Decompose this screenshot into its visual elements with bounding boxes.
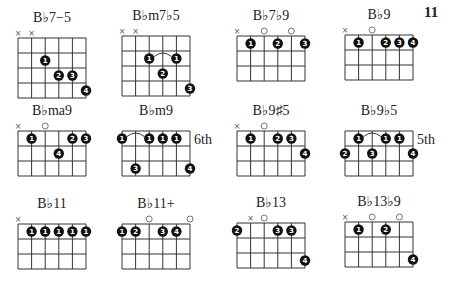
finger-number: 3 (289, 135, 294, 143)
finger-number: 2 (383, 39, 388, 47)
chord-diagram: B♭13♭9×124 (342, 194, 419, 267)
muted-string-icon: × (342, 26, 349, 35)
finger-number: 4 (174, 228, 179, 236)
finger-number: 2 (70, 135, 75, 143)
finger-number: 1 (356, 39, 361, 47)
muted-string-icon: × (15, 29, 22, 38)
open-string-icon (288, 28, 294, 34)
finger-number: 1 (160, 135, 165, 143)
finger-number: 1 (174, 135, 179, 143)
muted-string-icon: × (132, 27, 139, 36)
finger-number: 1 (29, 228, 34, 236)
finger-number: 1 (356, 226, 361, 234)
chord-name: B♭7−5 (33, 10, 71, 25)
muted-string-icon: × (234, 122, 241, 131)
finger-number: 1 (56, 228, 61, 236)
finger-number: 1 (120, 228, 125, 236)
chord-diagram: B♭m7♭5××1123 (119, 8, 196, 96)
chord-name: B♭13♭9 (357, 194, 401, 209)
finger-number: 4 (303, 150, 308, 158)
finger-number: 2 (56, 72, 61, 80)
finger-number: 4 (56, 150, 61, 158)
finger-number: 1 (248, 40, 253, 48)
chord-name: B♭m7♭5 (132, 8, 179, 23)
chord-diagram: B♭ma9×1234 (15, 103, 92, 176)
finger-number: 3 (275, 227, 280, 235)
finger-number: 3 (370, 150, 375, 158)
chord-name: B♭11 (37, 196, 66, 211)
finger-number: 3 (133, 165, 138, 173)
muted-string-icon: × (234, 27, 241, 36)
chord-diagram: B♭m91111346th (117, 103, 212, 176)
finger-number: 3 (303, 40, 308, 48)
open-string-icon (261, 123, 267, 129)
chord-name: B♭9♭5 (361, 103, 398, 118)
finger-number: 3 (160, 228, 165, 236)
fretboard-grid (122, 36, 190, 96)
open-string-icon (261, 215, 267, 221)
finger-number: 1 (43, 57, 48, 65)
open-string-icon (369, 27, 375, 33)
chord-name: B♭13 (256, 195, 286, 210)
finger-number: 1 (248, 135, 253, 143)
chord-diagram: B♭11×11111 (15, 196, 92, 269)
finger-number: 4 (411, 150, 416, 158)
finger-number: 2 (383, 226, 388, 234)
fret-position-label: 6th (194, 132, 212, 147)
finger-number: 3 (188, 85, 193, 93)
finger-number: 2 (275, 40, 280, 48)
chord-diagram: B♭9♯5×1234 (234, 103, 311, 176)
chord-name: B♭m9 (139, 103, 173, 118)
chord-name: B♭7♭9 (253, 8, 290, 23)
open-string-icon (187, 216, 193, 222)
finger-number: 1 (120, 135, 125, 143)
finger-number: 2 (133, 228, 138, 236)
muted-string-icon: × (15, 122, 22, 131)
chord-diagram: B♭13×2334 (232, 195, 310, 268)
finger-number: 1 (147, 55, 152, 63)
finger-number: 2 (343, 150, 348, 158)
open-string-icon (146, 216, 152, 222)
open-string-icon (261, 28, 267, 34)
chord-name: B♭11+ (137, 196, 174, 211)
muted-string-icon: × (15, 215, 22, 224)
finger-number: 1 (174, 55, 179, 63)
open-string-icon (42, 123, 48, 129)
finger-number: 4 (411, 256, 416, 264)
chord-name: B♭9 (368, 7, 391, 22)
finger-number: 4 (188, 165, 193, 173)
fretboard-grid (18, 38, 86, 98)
finger-number: 1 (84, 228, 89, 236)
finger-number: 1 (29, 135, 34, 143)
muted-string-icon: × (119, 27, 126, 36)
chord-diagram: B♭9♭51112345th (340, 103, 435, 176)
finger-number: 1 (70, 228, 75, 236)
finger-number: 3 (289, 227, 294, 235)
finger-number: 2 (275, 135, 280, 143)
chord-name: B♭ma9 (32, 103, 72, 118)
finger-number: 3 (84, 135, 89, 143)
finger-number: 4 (84, 87, 89, 95)
finger-number: 1 (147, 135, 152, 143)
chord-diagram: B♭7♭9×123 (234, 8, 311, 81)
muted-string-icon: × (342, 213, 349, 222)
finger-number: 4 (411, 39, 416, 47)
chord-diagram: B♭11+1234 (117, 196, 193, 269)
open-string-icon (396, 214, 402, 220)
finger-number: 1 (397, 135, 402, 143)
chord-chart: B♭7−5××1234B♭m7♭5××1123B♭7♭9×123B♭9×1234… (0, 0, 450, 305)
chord-name: B♭9♯5 (253, 103, 290, 118)
finger-number: 1 (43, 228, 48, 236)
finger-number: 1 (383, 135, 388, 143)
muted-string-icon: × (28, 29, 35, 38)
finger-number: 2 (160, 70, 165, 78)
finger-number: 3 (397, 39, 402, 47)
finger-number: 2 (235, 227, 240, 235)
finger-number: 4 (303, 257, 308, 265)
chord-diagram: B♭7−5××1234 (15, 10, 92, 98)
muted-string-icon: × (247, 214, 254, 223)
chord-diagram: B♭9×1234 (342, 7, 419, 80)
finger-number: 1 (356, 135, 361, 143)
open-string-icon (369, 214, 375, 220)
fret-position-label: 5th (417, 132, 435, 147)
